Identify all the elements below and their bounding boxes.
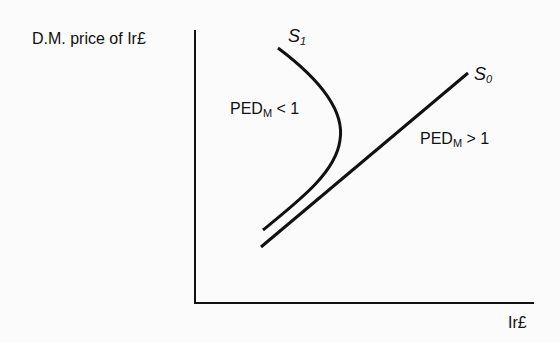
s1-label: S1 (288, 26, 306, 47)
x-axis-label: Ir£ (508, 314, 527, 332)
y-axis-label: D.M. price of Ir£ (32, 30, 146, 48)
diagram-canvas (0, 0, 560, 343)
s0-label: S0 (474, 64, 492, 85)
ped-greater-than-one-label: PEDM > 1 (420, 130, 489, 149)
ped-less-than-one-label: PEDM < 1 (230, 100, 299, 119)
supply-curve-s1 (263, 48, 341, 230)
